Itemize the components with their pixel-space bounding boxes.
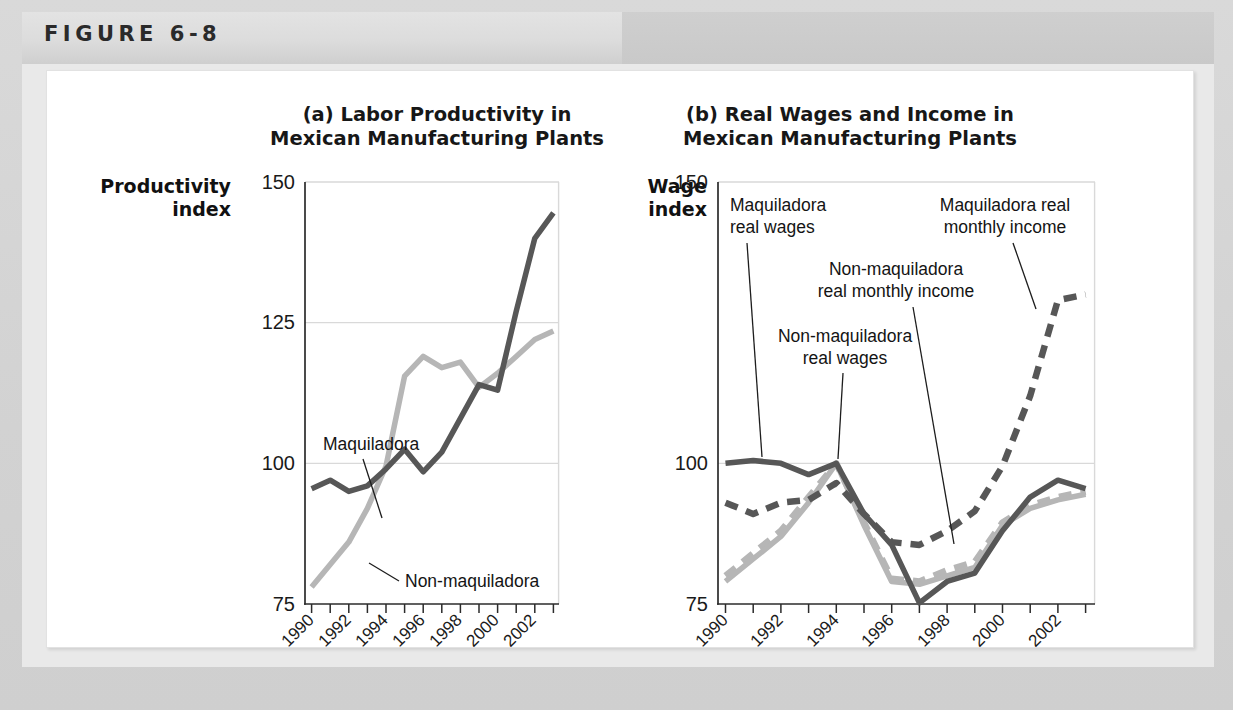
chart-b-ytick-75: 75 — [686, 593, 708, 615]
chart-a-xtick-1998: 1998 — [426, 610, 466, 647]
chart-a-ytick-150: 150 — [262, 171, 295, 193]
chart-b-series-non-maquiladora-real-monthly-income — [726, 463, 1086, 581]
chart-b-annotation-maq-wages-line2: real wages — [730, 217, 815, 237]
chart-b-annotation-nonmaq-wages-line2: real wages — [803, 348, 888, 368]
chart-b-annotation-maq-income-line1: Maquiladora real — [940, 195, 1070, 215]
chart-b-ytick-150: 150 — [675, 171, 708, 193]
chart-b-xtick-1994: 1994 — [803, 610, 843, 647]
chart-b-annotation-maq-income-line2: monthly income — [944, 217, 1067, 237]
chart-b-xtick-2002: 2002 — [1025, 610, 1065, 647]
chart-a-annotation-non-maquiladora-label: Non-maquiladora — [405, 571, 540, 591]
chart-a-ytick-125: 125 — [262, 311, 295, 333]
chart-a-xtick-1996: 1996 — [389, 610, 429, 647]
chart-a-ytick-75: 75 — [273, 593, 295, 615]
chart-a: 150 125 100 75 — [47, 71, 667, 647]
chart-a-ytick-100: 100 — [262, 452, 295, 474]
chart-b-annotation-nonmaq-wages-line1: Non-maquiladora — [778, 326, 913, 346]
chart-a-xticks — [312, 604, 554, 613]
figure-page: FIGURE 6-8 (a) Labor Productivity inMexi… — [0, 0, 1233, 710]
chart-b-xtick-labels: 1990 1992 1994 1996 1998 2000 2002 — [692, 610, 1065, 647]
chart-b-xticks — [726, 604, 1086, 613]
chart-b-series-non-maquiladora-real-wages — [726, 463, 1086, 584]
chart-b-xtick-1992: 1992 — [747, 610, 787, 647]
chart-a-xtick-2000: 2000 — [463, 610, 503, 647]
chart-a-gridlines — [305, 182, 559, 604]
chart-b-annotation-nonmaq-income-line1: Non-maquiladora — [829, 259, 964, 279]
chart-a-annotation-maquiladora-label: Maquiladora — [323, 434, 420, 454]
chart-b-annotation-maq-wages-line1: Maquiladora — [730, 195, 827, 215]
chart-b: 150 100 75 — [595, 71, 1193, 647]
figure-label: FIGURE 6-8 — [44, 22, 221, 46]
header-band-shade — [622, 12, 1214, 64]
chart-b-xtick-1996: 1996 — [858, 610, 898, 647]
chart-b-annotation-nonmaq-income-line2: real monthly income — [818, 281, 975, 301]
chart-a-annotation-non-maquiladora: Non-maquiladora — [369, 563, 540, 591]
chart-a-xtick-labels: 1990 1992 1994 1996 1998 2000 2002 — [278, 610, 540, 647]
figure-panel: (a) Labor Productivity inMexican Manufac… — [46, 70, 1194, 648]
chart-b-annotation-non-maquiladora-real-wages: Non-maquiladora real wages — [778, 326, 913, 459]
chart-b-xtick-1990: 1990 — [692, 610, 732, 647]
chart-a-axes — [304, 182, 559, 605]
chart-b-xtick-1998: 1998 — [914, 610, 954, 647]
chart-a-xtick-1992: 1992 — [315, 610, 355, 647]
chart-a-xtick-2002: 2002 — [500, 610, 540, 647]
chart-b-ytick-100: 100 — [675, 452, 708, 474]
chart-b-xtick-2000: 2000 — [969, 610, 1009, 647]
chart-a-xtick-1990: 1990 — [278, 610, 318, 647]
chart-a-xtick-1994: 1994 — [352, 610, 392, 647]
